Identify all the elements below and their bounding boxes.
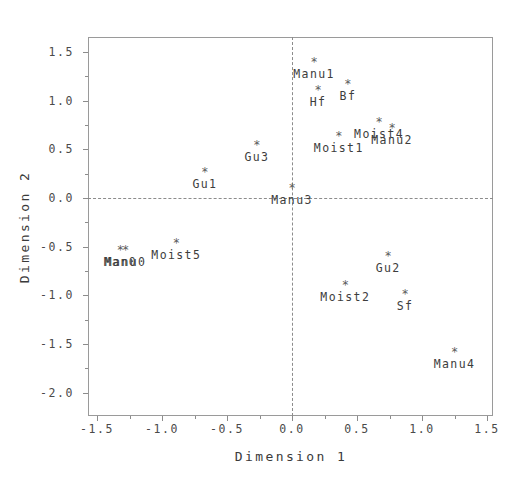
data-point-label: Sf bbox=[397, 301, 414, 313]
x-tick-minor bbox=[260, 416, 261, 419]
y-axis-title: Dimension 2 bbox=[17, 171, 32, 284]
y-tick-minor bbox=[85, 271, 88, 272]
y-tick-minor bbox=[85, 174, 88, 175]
y-tick bbox=[83, 247, 88, 248]
y-tick-label: -1.5 bbox=[40, 337, 74, 351]
y-tick bbox=[83, 393, 88, 394]
x-tick-label: 1.5 bbox=[474, 422, 500, 436]
x-tick bbox=[422, 416, 423, 421]
x-tick-minor bbox=[455, 416, 456, 419]
data-point-label: Manu2 bbox=[371, 135, 413, 147]
y-tick-minor bbox=[85, 76, 88, 77]
y-tick-minor bbox=[85, 368, 88, 369]
x-tick-minor bbox=[130, 416, 131, 419]
y-tick-label: 0.0 bbox=[48, 191, 74, 205]
scatter-plot: -1.5-1.0-0.50.00.51.01.51.51.00.50.0-0.5… bbox=[0, 0, 517, 482]
data-point-label: Manu0 bbox=[105, 257, 147, 269]
x-tick-minor bbox=[325, 416, 326, 419]
data-point-label: Moist1 bbox=[314, 143, 364, 155]
data-point-label: Bf bbox=[340, 91, 357, 103]
y-tick-minor bbox=[85, 320, 88, 321]
data-point-label: Moist2 bbox=[320, 292, 370, 304]
x-tick-label: -1.0 bbox=[145, 422, 179, 436]
y-tick-label: 1.0 bbox=[48, 94, 74, 108]
x-tick-label: -1.5 bbox=[80, 422, 114, 436]
y-tick-label: -1.0 bbox=[40, 288, 74, 302]
y-tick-minor bbox=[85, 222, 88, 223]
x-tick bbox=[97, 416, 98, 421]
y-tick-label: 0.5 bbox=[48, 142, 74, 156]
x-tick bbox=[292, 416, 293, 421]
x-tick bbox=[357, 416, 358, 421]
x-tick-label: 1.0 bbox=[409, 422, 435, 436]
y-tick-label: -2.0 bbox=[40, 386, 74, 400]
y-tick bbox=[83, 52, 88, 53]
data-point-label: Manu3 bbox=[271, 195, 313, 207]
x-tick bbox=[162, 416, 163, 421]
x-axis-title: Dimension 1 bbox=[235, 449, 348, 464]
x-tick-minor bbox=[390, 416, 391, 419]
x-tick-label: 0.5 bbox=[344, 422, 370, 436]
y-tick bbox=[83, 295, 88, 296]
x-tick bbox=[227, 416, 228, 421]
y-tick bbox=[83, 101, 88, 102]
y-tick-minor bbox=[85, 125, 88, 126]
data-point-label: Gu2 bbox=[376, 263, 401, 275]
y-tick-label: 1.5 bbox=[48, 45, 74, 59]
data-point-label: Manu1 bbox=[293, 69, 335, 81]
data-point-label: Gu1 bbox=[192, 179, 217, 191]
data-point-label: Hf bbox=[310, 97, 327, 109]
x-tick-label: -0.5 bbox=[210, 422, 244, 436]
y-tick bbox=[83, 149, 88, 150]
data-point-label: Moist5 bbox=[151, 250, 201, 262]
x-tick-label: 0.0 bbox=[279, 422, 305, 436]
y-tick bbox=[83, 198, 88, 199]
x-tick-minor bbox=[195, 416, 196, 419]
plot-frame bbox=[88, 37, 493, 416]
data-point-label: Manu4 bbox=[434, 359, 476, 371]
zero-line-vertical bbox=[292, 37, 293, 416]
x-tick bbox=[487, 416, 488, 421]
data-point-label: Gu3 bbox=[244, 152, 269, 164]
y-tick-label: -0.5 bbox=[40, 240, 74, 254]
y-tick bbox=[83, 344, 88, 345]
